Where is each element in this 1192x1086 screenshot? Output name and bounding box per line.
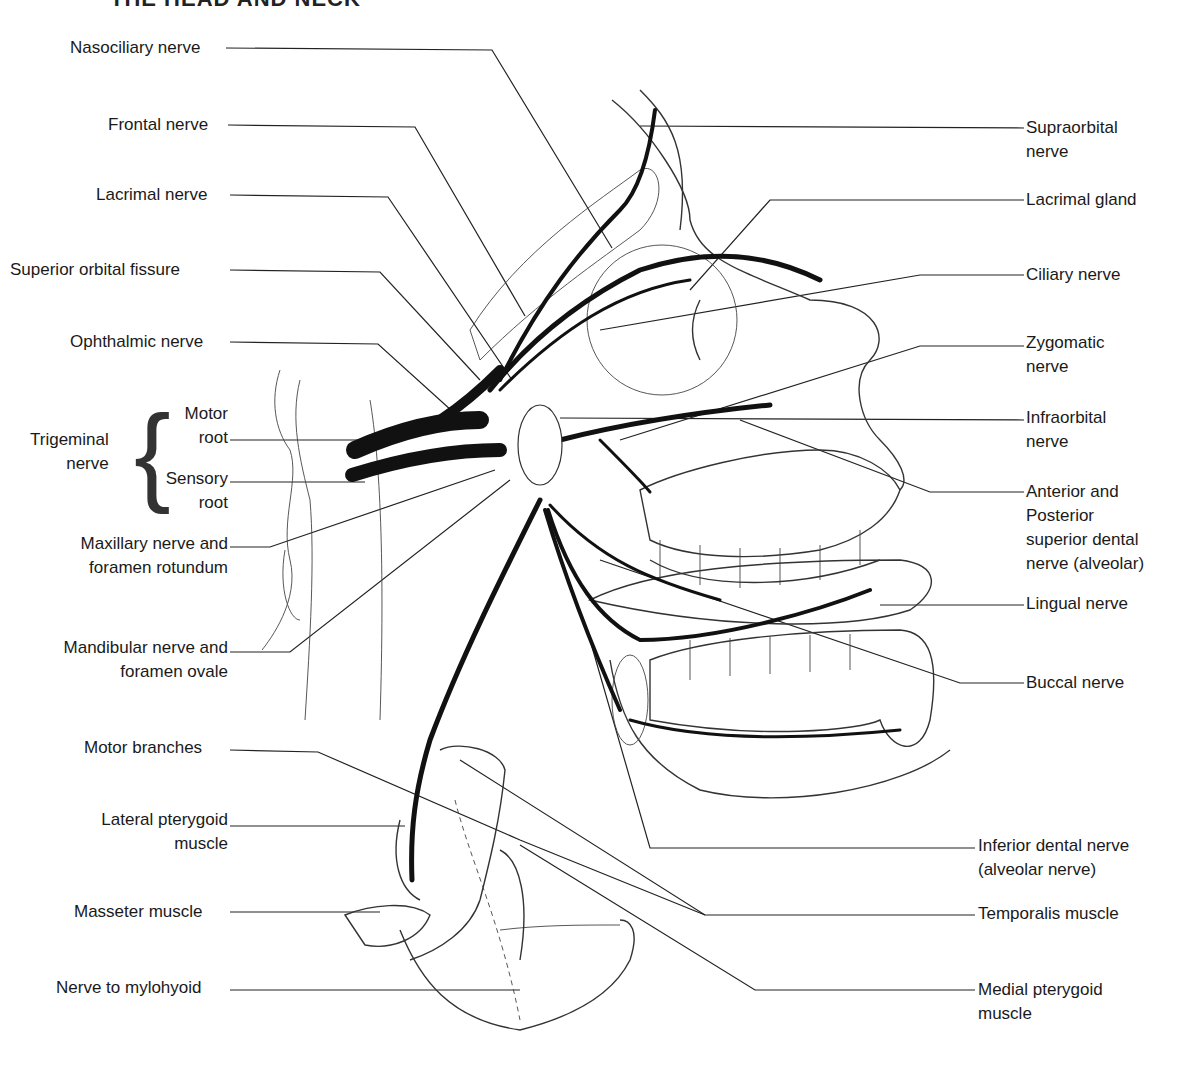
label-sensory-root: Sensory root xyxy=(150,467,228,515)
label-ophthalmic-nerve: Ophthalmic nerve xyxy=(70,330,203,354)
label-trigeminal-nerve: Trigeminal nerve xyxy=(30,428,109,476)
label-motor-root: Motor root xyxy=(150,402,228,450)
upper-teeth xyxy=(640,450,900,588)
label-frontal-nerve: Frontal nerve xyxy=(108,113,208,137)
label-superior-dental-nerve: Anterior and Posterior superior dental n… xyxy=(1026,480,1144,576)
label-infraorbital-nerve: Infraorbital nerve xyxy=(1026,406,1106,454)
label-masseter-muscle: Masseter muscle xyxy=(74,900,202,924)
label-zygomatic-nerve: Zygomatic nerve xyxy=(1026,331,1104,379)
label-supraorbital-nerve: Supraorbital nerve xyxy=(1026,116,1118,164)
lower-teeth xyxy=(610,630,950,798)
label-buccal-nerve: Buccal nerve xyxy=(1026,671,1124,695)
label-motor-branches: Motor branches xyxy=(84,736,202,760)
label-nerve-to-mylohyoid: Nerve to mylohyoid xyxy=(56,976,202,1000)
label-medial-pterygoid: Medial pterygoid muscle xyxy=(978,978,1103,1026)
label-temporalis-muscle: Temporalis muscle xyxy=(978,902,1119,926)
label-lateral-pterygoid: Lateral pterygoid muscle xyxy=(60,808,228,856)
label-lingual-nerve: Lingual nerve xyxy=(1026,592,1128,616)
label-mandibular-nerve: Mandibular nerve and foramen ovale xyxy=(30,636,228,684)
skull-base-outline xyxy=(262,370,382,720)
label-lacrimal-nerve: Lacrimal nerve xyxy=(96,183,208,207)
label-ciliary-nerve: Ciliary nerve xyxy=(1026,263,1120,287)
label-nasociliary-nerve: Nasociliary nerve xyxy=(70,36,200,60)
label-inferior-dental-nerve: Inferior dental nerve (alveolar nerve) xyxy=(978,834,1129,882)
label-superior-orbital-fissure: Superior orbital fissure xyxy=(10,258,180,282)
label-lacrimal-gland: Lacrimal gland xyxy=(1026,188,1137,212)
label-maxillary-nerve: Maxillary nerve and foramen rotundum xyxy=(54,532,228,580)
